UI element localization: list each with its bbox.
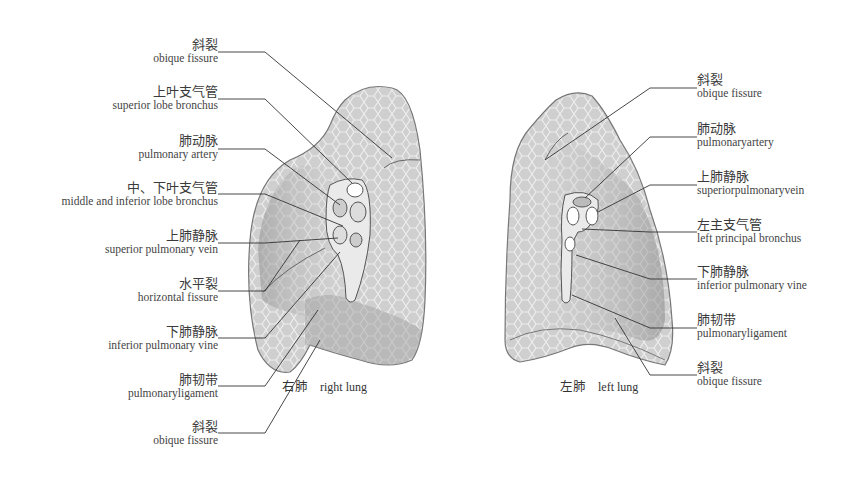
right-lung-caption: 右肺right lung	[282, 376, 367, 395]
left-lung-caption: 左肺left lung	[560, 376, 638, 395]
label-superior-lobe-bronchus: 上叶支气管 superior lobe bronchus	[113, 85, 218, 111]
label-middle-inferior-lobe-bronchus: 中、下叶支气管 middle and inferior lobe bronchu…	[62, 181, 219, 207]
label-left-superior-pulmonary-vein: 上肺静脉 superiorpulmonaryvein	[697, 170, 804, 196]
label-left-oblique-fissure-bottom: 斜裂 obique fissure	[697, 361, 762, 387]
label-right-inferior-pulmonary-vein: 下肺静脉 inferior pulmonary vine	[108, 325, 218, 351]
label-left-pulmonary-artery: 肺动脉 pulmonaryartery	[697, 122, 774, 148]
label-right-superior-pulmonary-vein: 上肺静脉 superior pulmonary vein	[105, 229, 218, 255]
label-right-pulmonary-ligament: 肺韧带 pulmonaryligament	[128, 373, 218, 399]
label-horizontal-fissure: 水平裂 horizontal fissure	[138, 277, 218, 303]
label-right-pulmonary-artery: 肺动脉 pulmonary artery	[138, 134, 218, 160]
label-right-oblique-fissure-top: 斜裂 obique fissure	[153, 38, 218, 64]
label-left-oblique-fissure-top: 斜裂 obique fissure	[697, 73, 762, 99]
label-right-oblique-fissure-bottom: 斜裂 obique fissure	[153, 420, 218, 446]
right-lung-shape	[249, 87, 426, 373]
label-left-pulmonary-ligament: 肺韧带 pulmonaryligament	[697, 313, 787, 339]
label-left-inferior-pulmonary-vein: 下肺静脉 inferior pulmonary vine	[697, 265, 807, 291]
label-left-principal-bronchus: 左主支气管 left principal bronchus	[697, 218, 801, 244]
